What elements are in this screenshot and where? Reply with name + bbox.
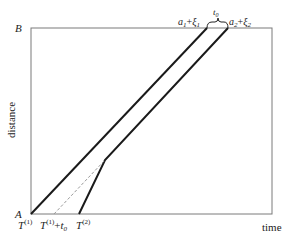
- label-t0: t0: [213, 7, 219, 18]
- point-b-label: B: [15, 22, 22, 34]
- label-a2-xi2: a2+ξ2: [229, 16, 251, 29]
- y-axis-label: distance: [5, 102, 17, 138]
- dashed-trajectory: [54, 160, 105, 214]
- label-a1-xi1: a1+ξ1: [178, 16, 200, 29]
- space-time-diagram: B A distance time a1+ξ1 t0 a2+ξ2 T(1) T(…: [0, 0, 293, 243]
- trajectory-2: [79, 28, 228, 214]
- trajectory-1: [31, 28, 207, 214]
- brace-t0: [207, 18, 228, 28]
- plot-frame: [31, 28, 272, 214]
- label-t1: T(1): [18, 218, 33, 231]
- label-t2: T(2): [76, 218, 91, 231]
- label-t1-plus-t0: T(1)+t0: [40, 218, 68, 233]
- x-axis-label: time: [262, 221, 282, 233]
